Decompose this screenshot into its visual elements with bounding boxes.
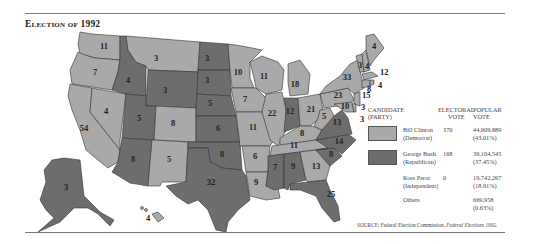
state-ne <box>196 94 236 116</box>
legend-row-others: Others 669,958(0.63%) <box>368 196 508 218</box>
swatch-democrat <box>368 126 397 141</box>
popular-vote: 19,742,267 <box>473 174 501 182</box>
label-mi: 18 <box>291 79 300 89</box>
legend-row-clinton: Bill Clinton(Democrat) 370 44,909,889(43… <box>368 126 508 148</box>
state-hi <box>152 212 164 222</box>
state-ak <box>38 158 114 232</box>
candidate-name: George Bush <box>403 150 436 158</box>
label-tx: 32 <box>207 177 216 187</box>
label-ut: 5 <box>137 113 141 123</box>
label-ok: 8 <box>220 149 224 159</box>
label-nc: 14 <box>335 136 344 146</box>
label-hi: 4 <box>146 213 151 223</box>
label-pa: 23 <box>334 90 343 100</box>
label-wa: 11 <box>100 41 108 51</box>
label-il: 22 <box>268 108 277 118</box>
label-in: 12 <box>286 106 295 116</box>
popular-vote: 39,104,545 <box>473 150 501 158</box>
label-md: 10 <box>341 101 350 111</box>
popular-percent: (0.63%) <box>473 204 493 212</box>
label-nd: 3 <box>205 53 209 63</box>
label-mt: 3 <box>154 53 158 63</box>
label-ny: 33 <box>343 72 352 82</box>
state-fl <box>290 180 340 222</box>
label-al: 9 <box>291 161 295 171</box>
label-az: 8 <box>131 154 135 164</box>
label-dc: 3 <box>360 114 364 124</box>
label-nj: 15 <box>362 90 371 100</box>
swatch-republican <box>368 150 397 165</box>
state-wy <box>146 70 198 108</box>
candidate-party: (Democrat) <box>403 134 433 142</box>
label-wv: 5 <box>322 111 326 121</box>
label-mn: 10 <box>234 67 243 77</box>
state-sd <box>197 70 231 96</box>
label-vt: 3 <box>358 60 362 70</box>
label-oh: 21 <box>307 104 316 114</box>
state-hi-island <box>145 209 148 212</box>
label-ks: 6 <box>216 123 220 133</box>
label-la: 9 <box>254 177 258 187</box>
state-ia <box>231 88 266 112</box>
label-sc: 8 <box>329 149 333 159</box>
label-ky: 8 <box>300 128 304 138</box>
electoral-vote: 0 <box>443 174 446 182</box>
label-nm: 5 <box>167 154 171 164</box>
label-ne: 5 <box>208 98 212 108</box>
label-ma: 12 <box>380 67 389 77</box>
label-de: 3 <box>361 102 365 112</box>
legend-row-bush: George Bush(Republican) 168 39,104,545(3… <box>368 150 508 172</box>
state-hi-island <box>141 207 144 210</box>
label-fl: 25 <box>327 189 336 199</box>
legend-header-electoral: ELECTORAL VOTE <box>438 106 475 120</box>
candidate-party: (Independent) <box>403 182 438 190</box>
popular-percent: (43.01%) <box>473 134 501 142</box>
state-ma <box>362 72 378 80</box>
source-note: SOURCE: Federal Election Commission, Fed… <box>357 222 497 228</box>
label-wy: 3 <box>163 85 167 95</box>
electoral-vote: 370 <box>443 126 452 134</box>
legend-header-popular: POPULAR VOTE <box>473 106 502 120</box>
popular-vote: 669,958 <box>473 196 493 204</box>
candidate-name: Others <box>403 196 420 204</box>
legend-header-candidate: CANDIDATE (PARTY) <box>368 106 404 120</box>
label-va: 13 <box>333 117 342 127</box>
label-sd: 3 <box>205 75 209 85</box>
legend-row-perot: Ross Perot(Independent) 0 19,742,267(18.… <box>368 174 508 196</box>
candidate-name: Bill Clinton <box>403 126 433 134</box>
electoral-vote: 168 <box>443 150 452 158</box>
candidate-party: (Republican) <box>403 158 436 166</box>
label-wi: 11 <box>260 71 268 81</box>
label-co: 8 <box>171 118 175 128</box>
popular-percent: (37.45%) <box>473 158 501 166</box>
state-ms <box>266 154 284 190</box>
popular-vote: 44,909,889 <box>473 126 501 134</box>
label-ak: 3 <box>64 182 68 192</box>
bottom-rule <box>25 232 505 233</box>
candidate-name: Ross Perot <box>403 174 438 182</box>
popular-percent: (18.91%) <box>473 182 501 190</box>
label-ga: 13 <box>312 161 321 171</box>
state-nd <box>198 42 230 70</box>
label-ca: 54 <box>80 123 89 133</box>
label-ar: 6 <box>253 151 257 161</box>
label-tn: 11 <box>290 140 298 150</box>
label-mo: 11 <box>249 122 257 132</box>
label-ri: 4 <box>378 80 383 90</box>
